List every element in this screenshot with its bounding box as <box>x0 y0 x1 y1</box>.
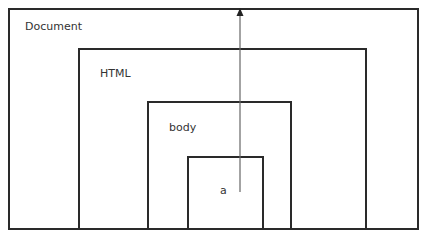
diagram-canvas: Document HTML body a <box>0 0 424 240</box>
propagation-arrow-icon <box>0 0 424 240</box>
